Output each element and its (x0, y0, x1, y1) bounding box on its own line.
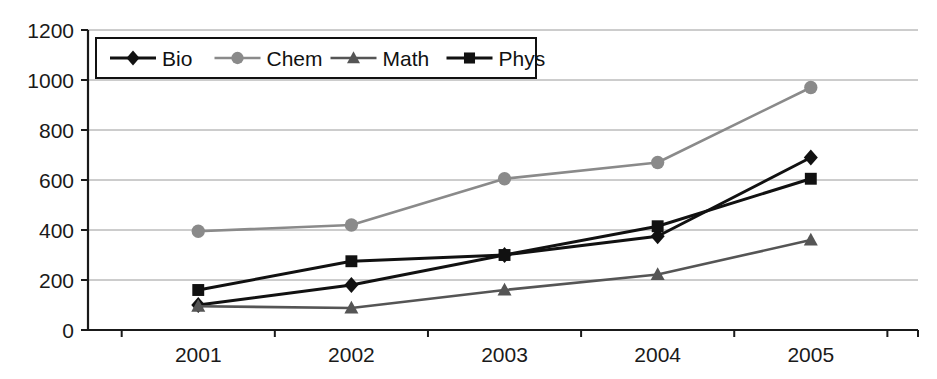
series-chem (192, 81, 818, 238)
y-axis-tick-label: 1200 (27, 19, 74, 42)
data-point-square (464, 52, 475, 63)
series-line (198, 179, 811, 290)
x-axis-tick-label: 2004 (634, 343, 681, 366)
legend-label: Chem (267, 47, 323, 70)
y-axis-tick-label: 400 (39, 219, 74, 242)
data-point-circle (651, 156, 664, 169)
y-axis-tick-label: 1000 (27, 69, 74, 92)
x-axis-tick-label: 2005 (787, 343, 834, 366)
data-point-diamond (804, 149, 818, 165)
data-point-circle (345, 218, 358, 231)
data-point-circle (231, 52, 243, 64)
data-point-circle (804, 81, 817, 94)
data-point-circle (192, 225, 205, 238)
y-axis-tick-labels: 020040060080010001200 (27, 19, 74, 342)
x-axis-tick-labels: 20012002200320042005 (175, 343, 834, 366)
y-axis-tick-label: 800 (39, 119, 74, 142)
x-axis-tick-label: 2001 (175, 343, 222, 366)
data-point-square (805, 173, 817, 185)
series-line (198, 88, 811, 232)
data-series-layer (191, 81, 818, 314)
x-axis-tick-label: 2002 (328, 343, 375, 366)
series-phys (192, 173, 816, 296)
data-point-square (345, 255, 357, 267)
line-chart: 020040060080010001200 200120022003200420… (0, 0, 937, 379)
x-axis-tick-label: 2003 (481, 343, 528, 366)
y-axis-tick-label: 600 (39, 169, 74, 192)
data-point-square (652, 220, 664, 232)
data-point-square (192, 284, 204, 296)
data-point-circle (498, 172, 511, 185)
y-axis-tick-label: 0 (62, 319, 74, 342)
data-point-diamond (344, 277, 358, 293)
y-axis-tick-label: 200 (39, 269, 74, 292)
data-point-square (499, 249, 511, 261)
legend-label: Phys (499, 47, 546, 70)
legend-label: Bio (162, 47, 192, 70)
data-point-triangle (804, 233, 818, 246)
legend-label: Math (383, 47, 430, 70)
chart-canvas: 020040060080010001200 200120022003200420… (0, 0, 937, 379)
chart-legend: BioChemMathPhys (96, 38, 545, 78)
